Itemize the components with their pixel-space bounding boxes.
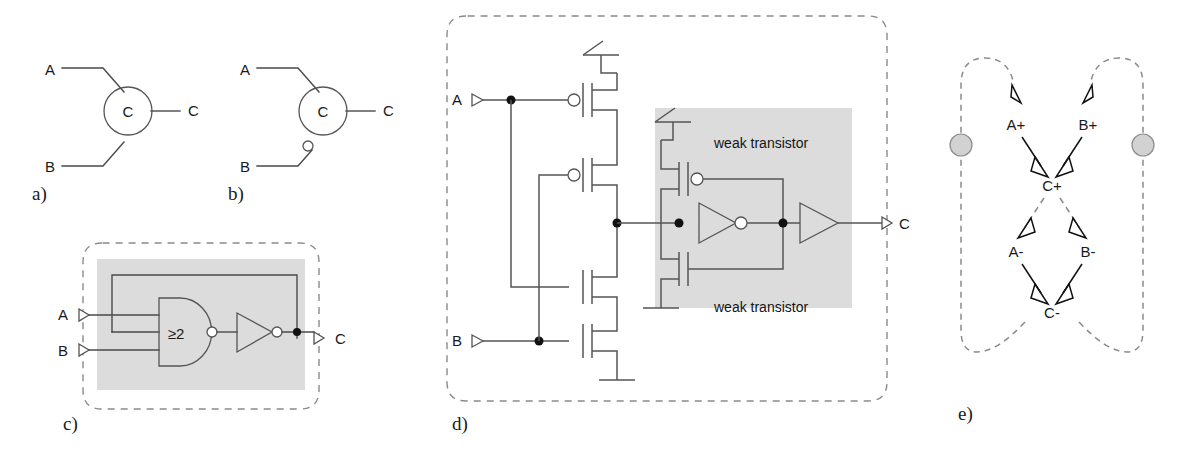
panel-e-token-left [950, 134, 972, 156]
panel-b-label: b) [228, 183, 244, 205]
figure-canvas: A B C C a) A B C C b) A B C [0, 0, 1180, 452]
panel-d-pmos2-drain [592, 185, 617, 223]
panel-c-input-b-label: B [58, 342, 68, 359]
panel-a-input-a-label: A [45, 61, 55, 78]
panel-e-arrowhead-afall-cfall [1031, 284, 1048, 304]
panel-d-nmos2-drain [592, 325, 617, 331]
panel-c-port-a-icon [79, 309, 89, 321]
panel-e-arc-left [961, 58, 1025, 352]
panel-e-transition-c-rise: C+ [1042, 177, 1062, 194]
panel-c-threshold-gate-label: ≥2 [168, 325, 185, 342]
panel-b-wire-b [257, 150, 312, 166]
panel-d-pmos2-bubble-icon [568, 169, 580, 181]
panel-d-input-b-label: B [452, 332, 462, 349]
panel-d-port-a-icon [472, 94, 483, 106]
panel-d-nmos2-source [592, 351, 617, 380]
panel-e: A+ B+ C+ A- B- C- e) [950, 58, 1154, 425]
panel-c-output-c-label: C [335, 330, 346, 347]
panel-b: A B C C b) [228, 61, 394, 205]
panel-d-vdd-wire-left [601, 55, 617, 73]
panel-d-input-a-label: A [452, 91, 462, 108]
panel-a-wire-a [62, 68, 124, 92]
panel-d-output-c-label: C [899, 215, 910, 232]
panel-d-keeper-inverter-bubble-icon [735, 217, 747, 229]
panel-d-pmos1-bubble-icon [568, 94, 580, 106]
panel-c-input-a-label: A [58, 306, 68, 323]
panel-c-gray-region [97, 259, 305, 390]
panel-d-weak-pmos-bubble-icon [691, 173, 703, 185]
panel-c-label: c) [63, 413, 78, 435]
panel-d-nmos1-source [592, 297, 617, 325]
panel-d-port-b-icon [472, 335, 483, 347]
panel-d-wire-b-to-pmos [539, 175, 569, 341]
panel-e-transition-b-rise: B+ [1079, 116, 1098, 133]
panel-a-output-c-label: C [188, 102, 199, 119]
panel-d-vdd-tick-left [583, 41, 603, 55]
panel-a-c-element-text: C [123, 103, 134, 120]
panel-d-nmos1-drain [592, 223, 617, 277]
panel-b-wire-a [257, 68, 319, 92]
panel-e-arrowhead-left-loop [1011, 85, 1021, 103]
panel-c-port-b-icon [79, 344, 89, 356]
panel-b-inversion-bubble-icon [303, 141, 313, 151]
panel-e-transition-a-rise: A+ [1007, 116, 1026, 133]
panel-c-gate-output-bubble-icon [207, 327, 217, 337]
panel-b-input-b-label: B [240, 158, 250, 175]
panel-b-c-element-text: C [318, 103, 329, 120]
panel-a-input-b-label: B [45, 158, 55, 175]
panel-c: A B C ≥2 c) [58, 243, 346, 435]
panel-b-output-c-label: C [383, 102, 394, 119]
panel-c-inverter-bubble-icon [272, 327, 282, 337]
panel-a: A B C C a) [32, 61, 199, 205]
panel-a-label: a) [32, 183, 47, 205]
panel-d: A B C [447, 16, 910, 435]
panel-d-wire-a-to-nmos [511, 100, 569, 287]
panel-e-arrowhead-crise-bfall [1069, 218, 1086, 238]
panel-d-pmos1-source [592, 73, 617, 90]
panel-d-weak-transistor-bottom-label: weak transistor [713, 299, 808, 315]
panel-d-keeper-node-dot [675, 219, 684, 228]
panel-e-transition-b-fall: B- [1081, 243, 1096, 260]
panel-e-arrowhead-brise-crise [1056, 157, 1073, 177]
panel-e-arrowhead-arise-crise [1031, 157, 1048, 177]
panel-c-junction-dot [293, 328, 301, 336]
panel-e-transition-c-fall: C- [1044, 304, 1060, 321]
panel-a-wire-b [62, 142, 124, 166]
panel-d-pmos2-source [592, 140, 617, 165]
panel-d-label: d) [452, 413, 468, 435]
panel-e-label: e) [958, 403, 973, 425]
panel-d-pmos1-drain [592, 110, 617, 140]
panel-e-arrowhead-right-loop [1083, 85, 1093, 103]
panel-e-arrowhead-bfall-cfall [1056, 284, 1073, 304]
panel-e-token-right [1132, 134, 1154, 156]
panel-d-weak-transistor-top-label: weak transistor [713, 135, 808, 151]
panel-e-arrowhead-crise-afall [1018, 218, 1035, 238]
panel-d-feedback-node-dot [779, 219, 788, 228]
panel-b-input-a-label: A [240, 61, 250, 78]
panel-e-transition-a-fall: A- [1009, 243, 1024, 260]
panel-e-arc-right [1079, 58, 1143, 352]
